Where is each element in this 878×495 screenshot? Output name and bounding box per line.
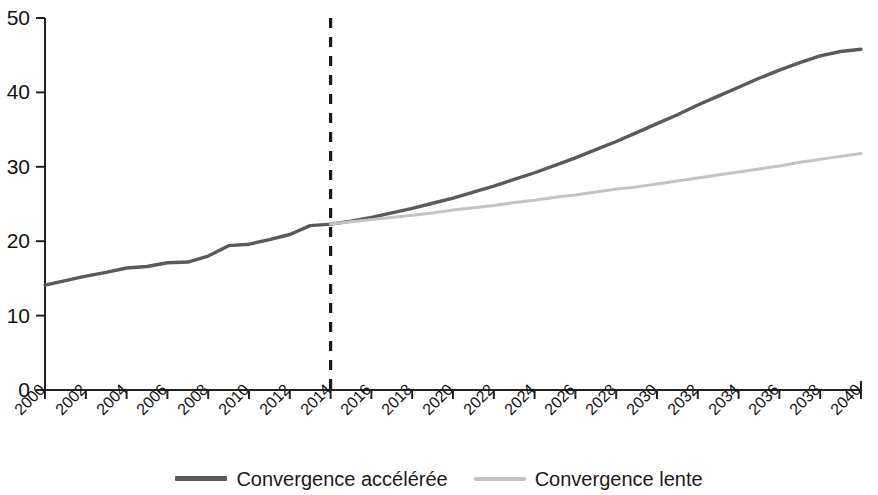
chart-axes	[36, 18, 861, 399]
legend-swatch-icon	[175, 476, 227, 481]
chart-series	[45, 49, 861, 285]
line-chart: 01020304050 2000200220042006200820102012…	[0, 0, 878, 495]
y-axis-tick-label: 20	[0, 230, 30, 251]
legend-item: Convergence lente	[474, 469, 703, 489]
y-axis-tick-label: 10	[0, 305, 30, 326]
legend-swatch-icon	[474, 477, 526, 481]
legend-label: Convergence lente	[535, 469, 703, 489]
legend-label: Convergence accélérée	[236, 469, 447, 489]
y-axis-tick-label: 40	[0, 81, 30, 102]
legend-item: Convergence accélérée	[175, 469, 447, 489]
y-axis-tick-label: 30	[0, 156, 30, 177]
chart-legend: Convergence accéléréeConvergence lente	[0, 462, 878, 495]
y-axis-tick-label: 50	[0, 7, 30, 28]
series-line-convergence-lente	[331, 153, 861, 224]
series-line-convergence-acceleree	[45, 49, 861, 285]
